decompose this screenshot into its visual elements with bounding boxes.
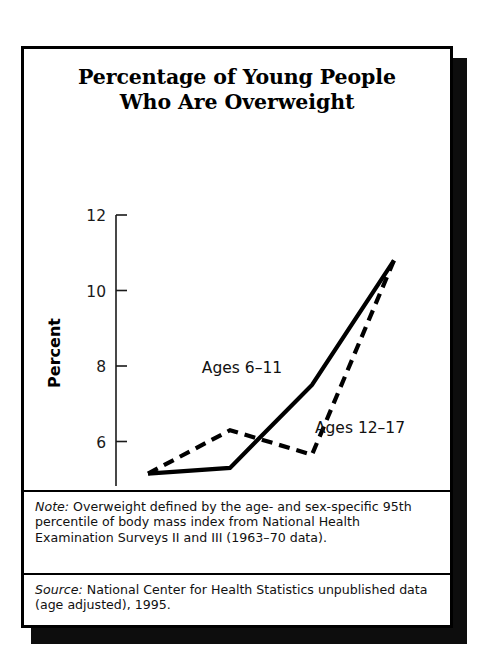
y-axis-title: Percent [45,318,64,388]
note-divider [24,490,450,492]
screenshot-root: Percentage of Young People Who Are Overw… [0,0,488,655]
y-tick-label-6: 6 [96,434,106,452]
note-footnote: Note: Overweight defined by the age- and… [35,499,441,545]
chart-canvas: Percent 12 10 8 6 4 [24,141,450,486]
series-label-ages-6-11: Ages 6–11 [202,359,282,377]
note-label: Note: [35,499,69,514]
source-label: Source: [35,582,83,597]
note-text: Overweight defined by the age- and sex-s… [35,499,412,545]
chart-title-line-2: Who Are Overweight [24,90,450,115]
chart-title-line-1: Percentage of Young People [24,65,450,90]
y-tick-label-8: 8 [96,358,106,376]
source-divider [24,573,450,575]
series-label-ages-12-17: Ages 12–17 [315,419,405,437]
y-tick-label-10: 10 [86,283,106,301]
source-footnote: Source: National Center for Health Stati… [35,582,441,613]
source-text: National Center for Health Statistics un… [35,582,428,612]
y-tick-label-12: 12 [86,207,106,225]
figure-card: Percentage of Young People Who Are Overw… [21,46,453,628]
chart-title: Percentage of Young People Who Are Overw… [24,65,450,115]
line-chart: Percent 12 10 8 6 4 [24,141,450,486]
